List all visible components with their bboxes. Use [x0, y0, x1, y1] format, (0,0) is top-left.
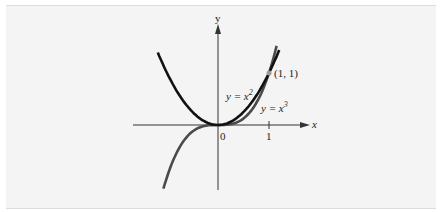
- graph: y x 0 1 (1, 1) y = x2 y = x3: [0, 0, 440, 212]
- y-axis-arrow-icon: [215, 24, 221, 34]
- intersection-point: [267, 71, 272, 76]
- x-axis-arrow-icon: [300, 122, 310, 128]
- point-label: (1, 1): [274, 67, 298, 80]
- curve-x-cubed: [163, 46, 276, 189]
- y-axis-label: y: [215, 12, 221, 24]
- label-x-squared: y = x2: [225, 88, 253, 102]
- x-axis-label: x: [311, 118, 317, 130]
- origin-label: 0: [220, 130, 226, 142]
- tick-label-1: 1: [266, 130, 272, 142]
- label-x-cubed: y = x3: [260, 100, 288, 114]
